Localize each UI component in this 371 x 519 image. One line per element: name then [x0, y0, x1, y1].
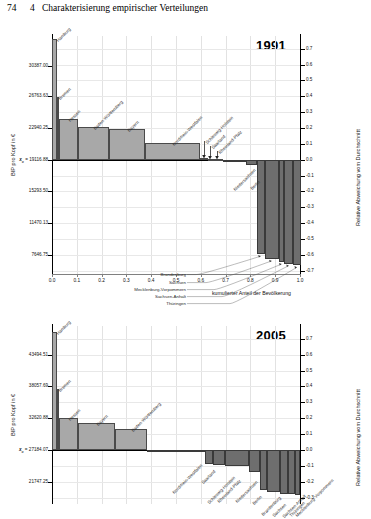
gridline-vertical — [201, 326, 202, 504]
bar-schleswig-holstein[interactable] — [205, 450, 213, 464]
gridline-horizontal — [52, 371, 300, 372]
figure-1991: 1991 BIP pro Kopf in € Relative Abweichu… — [0, 26, 371, 311]
bar-berlin[interactable] — [249, 450, 259, 472]
bar-rheinland-pfalz[interactable] — [213, 450, 225, 465]
y-tick-label-left: 38057.69 — [4, 383, 48, 388]
gridline-vertical — [250, 326, 251, 504]
y-tick-right — [301, 466, 305, 467]
gridline-horizontal — [52, 402, 300, 403]
year-tag-2005: 2005 — [256, 328, 286, 343]
y-tick-label-left: 32620.88 — [4, 415, 48, 420]
y-axis-right-title-2005: Relative Abweichung vom Durchschnitt — [355, 389, 361, 486]
y-tick-right — [301, 482, 305, 483]
gridline-vertical — [126, 326, 127, 504]
y-tick-right — [301, 339, 305, 340]
y-tick-label-right: -0.1 — [306, 463, 314, 468]
y-tick-label-left: 21747.25 — [4, 479, 48, 484]
y-tick-right — [301, 434, 305, 435]
leader-line — [0, 26, 371, 334]
bar-nordrhein-westfalen[interactable] — [147, 450, 201, 452]
y-tick-right — [301, 355, 305, 356]
gridline-horizontal — [52, 339, 300, 340]
gridline-vertical — [226, 326, 227, 504]
y-axis-line-right — [300, 324, 301, 504]
page-header: 74 4 Charakterisierung empirischer Verte… — [0, 0, 371, 22]
bar-hessen[interactable] — [59, 418, 77, 450]
y-tick-label-right: 0.7 — [306, 336, 312, 341]
chapter-number: 4 — [30, 3, 35, 13]
y-tick-right — [301, 418, 305, 419]
y-tick-right — [301, 402, 305, 403]
y-tick-label-right: 0.3 — [306, 399, 312, 404]
bar-baden-w-rttemberg[interactable] — [115, 429, 147, 450]
bar-th-ringen[interactable] — [288, 450, 295, 495]
y-tick-label-right: 0.4 — [306, 383, 312, 388]
y-tick-right — [301, 450, 305, 451]
y-tick-label-right: 0.0 — [306, 447, 312, 452]
figure-2005: 2005 BIP pro Kopf in € Relative Abweichu… — [0, 316, 371, 500]
y-tick-label-right: 0.5 — [306, 368, 312, 373]
chapter-title: Charakterisierung empirischer Verteilung… — [42, 3, 208, 13]
bar-niedersachsen[interactable] — [225, 450, 249, 466]
y-tick-label-left: 43494.51 — [4, 352, 48, 357]
bar-mecklenburg-vorpommern[interactable] — [295, 450, 300, 495]
y-tick-label-right: -0.2 — [306, 479, 314, 484]
gridline-vertical — [176, 326, 177, 504]
gridline-horizontal — [52, 355, 300, 356]
gridline-horizontal — [52, 418, 300, 419]
gridline-horizontal — [52, 386, 300, 387]
mean-axis-label: xø = 27184.07 — [4, 447, 48, 454]
bar-brandenburg[interactable] — [260, 450, 268, 491]
y-tick-left — [48, 482, 52, 483]
bar-bayern[interactable] — [78, 423, 115, 450]
y-tick-label-right: 0.2 — [306, 415, 312, 420]
y-tick-label-right: 0.6 — [306, 352, 312, 357]
page-number: 74 — [7, 3, 17, 13]
bar-sachsen[interactable] — [267, 450, 280, 492]
y-tick-right — [301, 371, 305, 372]
y-tick-label-right: 0.1 — [306, 431, 312, 436]
bar-sachsen-anhalt[interactable] — [280, 450, 287, 494]
y-tick-right — [301, 386, 305, 387]
